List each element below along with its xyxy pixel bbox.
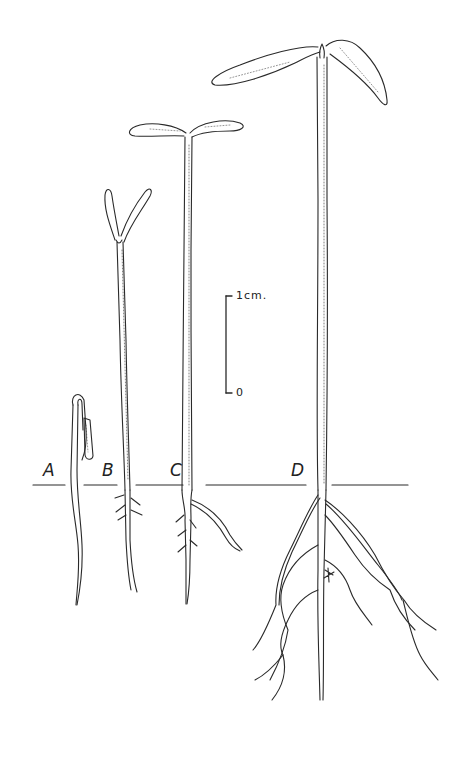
scale-bar-top-label: 1cm.: [236, 290, 267, 301]
label-d: D: [291, 462, 304, 479]
scale-bar-bottom-label: 0: [236, 387, 244, 398]
seedling-growth-figure: A B C D 1cm. 0: [0, 0, 465, 776]
seedling-d: [212, 40, 438, 700]
seedling-a: [71, 395, 93, 605]
scale-bar: [226, 296, 232, 393]
seedling-drawing: [0, 0, 465, 776]
label-c: C: [170, 462, 182, 479]
seedling-b: [105, 189, 151, 592]
label-b: B: [102, 462, 114, 479]
label-a: A: [43, 462, 55, 479]
